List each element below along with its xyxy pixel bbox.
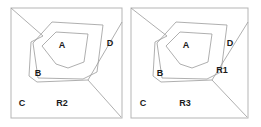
panel-left-label-b: B xyxy=(35,68,42,78)
panel-left-label-d: D xyxy=(107,38,114,48)
panel-right: A B C D R1 R3 xyxy=(131,8,248,118)
region-decomposition-figure: A B C D R2 A B C D R1 R3 xyxy=(0,0,261,127)
panel-right-label-d: D xyxy=(227,38,234,48)
panel-right-label-r3: R3 xyxy=(179,98,191,108)
panel-right-label-c: C xyxy=(140,98,147,108)
panel-right-label-a: A xyxy=(183,40,190,50)
panel-left: A B C D R2 xyxy=(11,8,122,118)
panel-right-label-b: B xyxy=(157,68,164,78)
panel-left-label-c: C xyxy=(19,98,26,108)
panel-left-label-r2: R2 xyxy=(56,98,68,108)
panel-left-label-a: A xyxy=(59,40,66,50)
panel-right-label-r1: R1 xyxy=(216,65,228,75)
